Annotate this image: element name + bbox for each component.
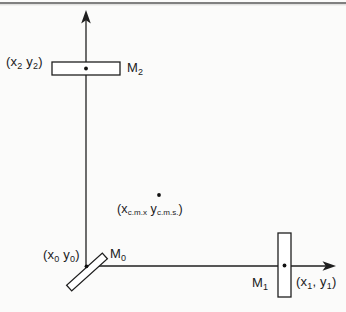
mirror-m1-center-dot	[283, 264, 287, 268]
mirror-m2-center-dot	[84, 67, 88, 71]
center-of-mass-dot	[157, 193, 161, 197]
mirror1-name-label: M1	[252, 276, 268, 292]
diagram-graphics	[0, 0, 346, 312]
mirror1-coords-label: (x1, y1)	[296, 275, 337, 291]
beamsplitter-name-label: M0	[110, 247, 126, 263]
mirror2-coords-label: (x2 y2)	[6, 55, 43, 71]
diagram-canvas: (x2 y2) M2 (xc.m.x yc.m.s.) (x0 y0) M0 M…	[0, 0, 346, 312]
origin-dot	[85, 264, 89, 268]
mirror2-name-label: M2	[127, 61, 143, 77]
center-of-mass-coords-label: (xc.m.x yc.m.s.)	[117, 203, 183, 217]
origin-coords-label: (x0 y0)	[43, 248, 80, 264]
